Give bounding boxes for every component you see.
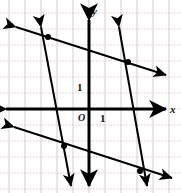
origin-label: O	[78, 113, 85, 123]
graph-figure: x y O 1 1	[0, 0, 181, 193]
intersection-upper-right	[125, 59, 131, 65]
intersection-upper-left	[45, 34, 51, 40]
y-axis-label: y	[92, 6, 97, 17]
intersection-lower-left	[61, 143, 67, 149]
coordinate-plane-svg	[0, 0, 181, 193]
x-unit-label: 1	[100, 113, 106, 124]
intersection-lower-right	[137, 168, 143, 174]
x-axis-label: x	[170, 104, 176, 115]
y-unit-label: 1	[77, 82, 83, 93]
